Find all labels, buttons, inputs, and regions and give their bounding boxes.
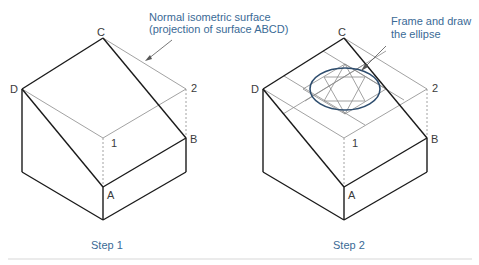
leader-arrow [361,46,386,71]
vertex-label-c: C [338,26,346,38]
vertex-label-a: A [107,189,115,201]
construction-lines [22,38,186,187]
vertex-label-2: 2 [432,82,438,94]
ellipse [310,68,380,110]
object-outline [22,38,186,220]
annotation-line-1: Normal isometric surface [149,11,271,23]
step1-caption: Step 1 [91,239,123,251]
annotation-line-2: (projection of surface ABCD) [149,23,288,35]
vertex-label-d: D [10,83,18,95]
isometric-diagram: C D 2 1 B A Normal isometric surface (pr… [0,0,479,265]
step1-figure: C D 2 1 B A Normal isometric surface (pr… [10,11,288,251]
object-outline [263,38,427,220]
vertex-label-1: 1 [352,137,358,149]
vertex-label-1: 1 [111,137,117,149]
step2-caption: Step 2 [333,239,365,251]
annotation-line-2: the ellipse [391,28,441,40]
vertex-label-2: 2 [191,82,197,94]
step2-figure: C D 2 1 B A Frame and draw the ellipse S… [251,15,471,251]
vertex-label-a: A [348,189,356,201]
vertex-label-d: D [251,83,259,95]
construction-lines [263,38,427,187]
vertex-label-b: B [431,133,438,145]
leader-arrow [145,40,172,61]
vertex-label-b: B [190,133,197,145]
vertex-label-c: C [97,26,105,38]
annotation-line-1: Frame and draw [391,15,471,27]
